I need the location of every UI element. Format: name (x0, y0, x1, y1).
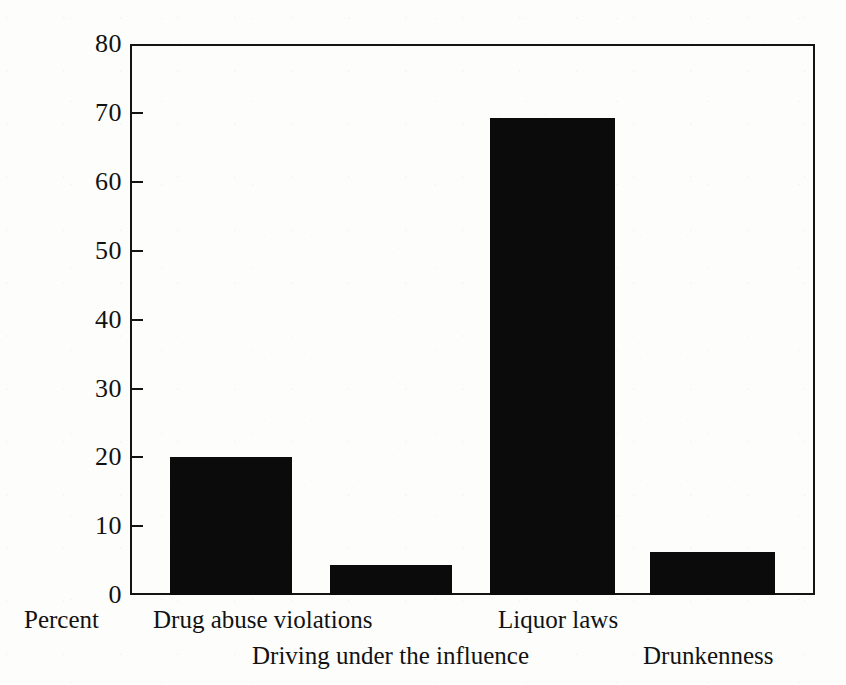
x-axis-label-liquor-laws: Liquor laws (498, 607, 618, 632)
x-axis-labels: Percent Drug abuse violations Driving un… (0, 0, 846, 685)
x-axis-label-drug-abuse-violations: Drug abuse violations (153, 607, 372, 632)
bar-chart: 80 70 60 50 40 30 20 10 0 Percent Drug a… (0, 0, 846, 685)
x-axis-label-drunkenness: Drunkenness (643, 643, 774, 668)
x-axis-label-driving-under-the-influence: Driving under the influence (252, 643, 529, 668)
y-axis-title: Percent (24, 607, 99, 632)
